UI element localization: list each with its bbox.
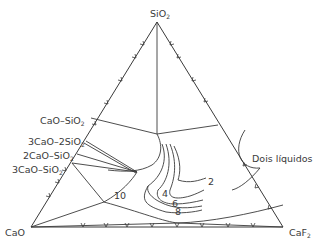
compound-label-cao-sio2: CaO–SiO2 <box>40 115 85 127</box>
vertex-label-caf2: CaF2 <box>289 227 311 239</box>
isotherm-label-8: 8 <box>175 206 181 217</box>
region-label-two-liquids: Dois líquidos <box>252 153 313 164</box>
compound-label-3cao-2sio2: 3CaO–2SiO2 <box>28 136 85 148</box>
compound-label-2cao-sio2: 2CaO–SiO2 <box>23 150 74 162</box>
compound-label-3cao-sio2: 3CaO–SiO2 <box>12 164 63 176</box>
isotherm-label-2: 2 <box>208 176 214 187</box>
isotherm-label-4: 4 <box>162 188 168 199</box>
vertex-label-cao: CaO <box>5 227 25 238</box>
vertex-label-sio2: SiO2 <box>150 8 170 20</box>
edge-right <box>157 22 283 227</box>
ternary-diagram: SiO2 CaO CaF2 CaO–SiO2 3CaO–2SiO2 2CaO–S… <box>0 0 315 248</box>
isotherm-label-10: 10 <box>114 190 126 201</box>
